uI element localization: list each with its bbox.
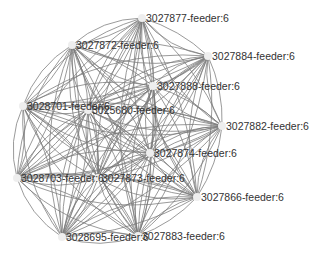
graph-edge bbox=[62, 45, 79, 237]
graph-node[interactable] bbox=[68, 41, 76, 49]
graph-node[interactable] bbox=[204, 52, 212, 60]
graph-node[interactable] bbox=[58, 233, 66, 241]
graph-node[interactable] bbox=[19, 102, 27, 110]
node-label: 3027877-feeder:6 bbox=[146, 12, 229, 24]
node-label: 3028695-feeder:6 bbox=[66, 231, 149, 243]
node-label: 3027888-feeder:6 bbox=[157, 80, 240, 92]
network-graph: 3027877-feeder:63027872-feeder:63027884-… bbox=[0, 0, 319, 253]
graph-node[interactable] bbox=[13, 174, 21, 182]
node-label: 3027872-feeder:6 bbox=[76, 39, 159, 51]
node-label: 3028703-feeder:6 bbox=[21, 172, 104, 184]
node-label: 3027882-feeder:6 bbox=[226, 120, 309, 132]
graph-node[interactable] bbox=[146, 149, 154, 157]
graph-node[interactable] bbox=[218, 122, 226, 130]
node-label: 3027883-feeder:6 bbox=[142, 230, 225, 242]
graph-node[interactable] bbox=[149, 82, 157, 90]
node-label: 3027866-feeder:6 bbox=[201, 191, 284, 203]
node-label: 3025680-feeder:6 bbox=[92, 104, 175, 116]
graph-node[interactable] bbox=[138, 14, 146, 22]
node-label: 3027873-feeder:6 bbox=[102, 172, 185, 184]
node-label: 3027874-feeder:6 bbox=[154, 147, 237, 159]
node-label: 3027884-feeder:6 bbox=[212, 50, 295, 62]
graph-node[interactable] bbox=[193, 193, 201, 201]
edges-layer bbox=[13, 18, 222, 243]
